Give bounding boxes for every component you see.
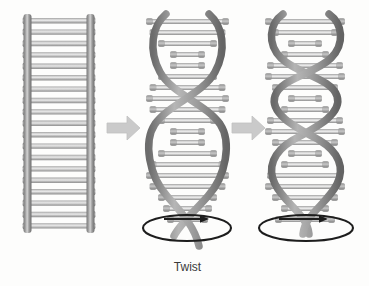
rotation-ellipse-middle: [143, 215, 231, 241]
right-arrow-icon: [231, 113, 267, 143]
ladder-rungs: [23, 17, 96, 229]
panel-loosely-twisted-helix: [130, 0, 245, 286]
panel-untwisted-ladder: [0, 0, 130, 286]
tight-helix-illustration: [245, 0, 369, 286]
transition-arrow-1: [106, 113, 142, 143]
transition-arrow-2: [231, 113, 267, 143]
loose-helix-illustration: [130, 0, 245, 286]
tight-helix-strands: [271, 14, 340, 234]
right-arrow-icon: [106, 113, 142, 143]
dna-twist-figure: Twist: [0, 0, 369, 286]
panel-tightly-twisted-helix: [245, 0, 369, 286]
ladder-illustration: [0, 0, 130, 286]
twist-caption: Twist: [130, 260, 245, 274]
